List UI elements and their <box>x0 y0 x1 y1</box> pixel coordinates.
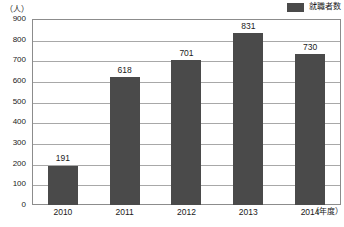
legend-label: 就職者数 <box>309 3 341 11</box>
legend-swatch-icon <box>287 3 304 12</box>
gridlines <box>33 20 340 204</box>
y-axis-tick: 400 <box>13 118 26 126</box>
gridline <box>33 61 340 62</box>
gridline <box>33 123 340 124</box>
x-axis-unit-label: （年度） <box>311 208 343 216</box>
gridline <box>33 103 340 104</box>
x-axis-tick-labels: 20102011201220132014 <box>32 208 341 222</box>
plot-area <box>32 19 341 205</box>
chart-page: 就職者数 （人） 9008007006005004003002001000 19… <box>0 0 344 227</box>
y-axis-tick: 700 <box>13 56 26 64</box>
gridline <box>33 185 340 186</box>
gridline <box>33 82 340 83</box>
y-axis-tick: 100 <box>13 180 26 188</box>
gridline <box>33 165 340 166</box>
y-axis-tick: 800 <box>13 36 26 44</box>
x-axis-tick: 2010 <box>53 208 72 217</box>
y-axis-tick: 0 <box>22 201 26 209</box>
y-axis-tick-labels: 9008007006005004003002001000 <box>0 19 30 205</box>
gridline <box>33 144 340 145</box>
chart-legend: 就職者数 <box>287 1 341 13</box>
y-axis-tick: 600 <box>13 77 26 85</box>
y-axis-tick: 200 <box>13 160 26 168</box>
y-axis-tick: 300 <box>13 139 26 147</box>
x-axis-tick: 2011 <box>116 208 134 217</box>
x-axis-tick: 2013 <box>239 208 258 217</box>
gridline <box>33 41 340 42</box>
y-axis-tick: 900 <box>13 15 26 23</box>
x-axis-tick: 2012 <box>177 208 196 217</box>
y-axis-unit-label: （人） <box>5 6 29 14</box>
y-axis-tick: 500 <box>13 98 26 106</box>
